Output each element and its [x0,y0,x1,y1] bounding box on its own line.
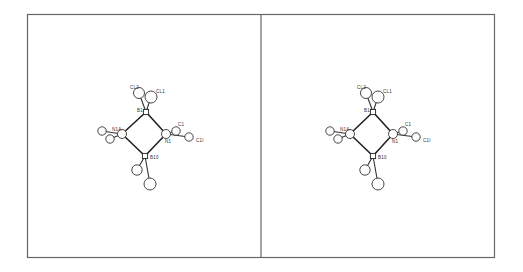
atom-n1 [389,130,398,139]
atom-sc [132,165,142,175]
atom-label-n1a: N1A [340,127,349,132]
atom-sd [372,178,384,190]
atom-label-b1: B1 [364,108,370,113]
atom-label-cl1: CL1 [383,89,392,94]
atom-b1 [143,109,148,114]
atom-sb [106,135,114,143]
atom-label-n1: N1 [392,139,398,144]
atom-c1 [172,127,180,135]
atom-label-c1i: C1I [196,138,204,143]
atom-label-b10: B10 [150,155,159,160]
atom-b10 [370,153,375,158]
atom-label-n1: N1 [165,139,171,144]
atom-label-c1: C1 [178,122,184,127]
atom-n1 [162,130,171,139]
stereo-figure: B1CL2CL1N1AN1B10C1C1I B1CL2CL1N1AN1B10C1… [0,0,523,272]
atom-sc [360,165,370,175]
atom-c1i [412,133,420,141]
atom-sa [98,127,106,135]
atom-label-c1: C1 [405,122,411,127]
atom-label-b1: B1 [137,108,143,113]
atom-sb [334,135,342,143]
atom-label-n1a: N1A [112,127,121,132]
atom-c1 [399,127,407,135]
atom-b10 [142,153,147,158]
atom-label-b10: B10 [378,155,387,160]
atom-b1 [370,109,375,114]
atom-label-c1i: C1I [423,138,431,143]
atom-sa [326,127,334,135]
atom-label-cl2: CL2 [357,85,366,90]
atom-sd [144,178,156,190]
atom-label-cl2: CL2 [130,85,139,90]
atom-c1i [185,133,193,141]
atom-label-cl1: CL1 [156,89,165,94]
